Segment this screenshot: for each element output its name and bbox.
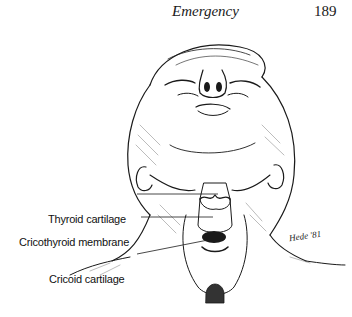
label-cricoid-cartilage: Cricoid cartilage bbox=[49, 273, 124, 285]
label-thyroid-cartilage: Thyroid cartilage bbox=[48, 213, 126, 225]
cricoid-leader-line bbox=[137, 240, 208, 254]
page-number: 189 bbox=[314, 3, 337, 20]
running-head-title: Emergency bbox=[172, 3, 239, 20]
anatomy-illustration: Thyroid cartilage Cricothyroid membrane … bbox=[0, 25, 352, 317]
label-cricothyroid-membrane: Cricothyroid membrane bbox=[19, 236, 129, 248]
running-head: Emergency 189 bbox=[0, 3, 352, 23]
